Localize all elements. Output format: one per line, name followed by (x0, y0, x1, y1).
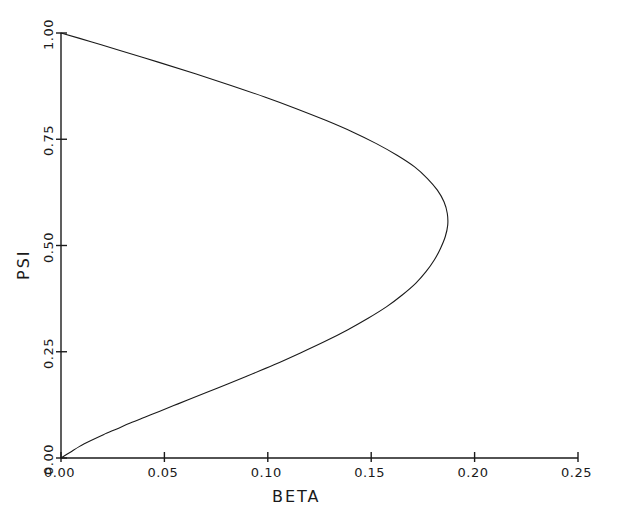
psi-tick-label-4: 1.00 (42, 19, 55, 50)
beta-axis-title: BETA (272, 489, 321, 505)
psi-beta-curve (61, 33, 448, 458)
psi-tick-label-1: 0.25 (42, 338, 55, 369)
psi-tick-label-0: 0.00 (42, 444, 55, 475)
beta-axis-ticks (61, 452, 578, 462)
chart-container: 0.000.050.100.150.200.25 0.000.250.500.7… (0, 0, 620, 518)
beta-tick-label-3: 0.15 (354, 466, 385, 479)
psi-axis-title: PSI (16, 249, 32, 280)
beta-tick-label-5: 0.25 (561, 466, 592, 479)
psi-tick-label-3: 0.75 (42, 125, 55, 156)
beta-tick-label-2: 0.10 (251, 466, 282, 479)
beta-tick-label-4: 0.20 (458, 466, 489, 479)
beta-tick-label-1: 0.05 (147, 466, 178, 479)
plot-area (0, 0, 620, 518)
psi-tick-label-2: 0.50 (42, 232, 55, 263)
